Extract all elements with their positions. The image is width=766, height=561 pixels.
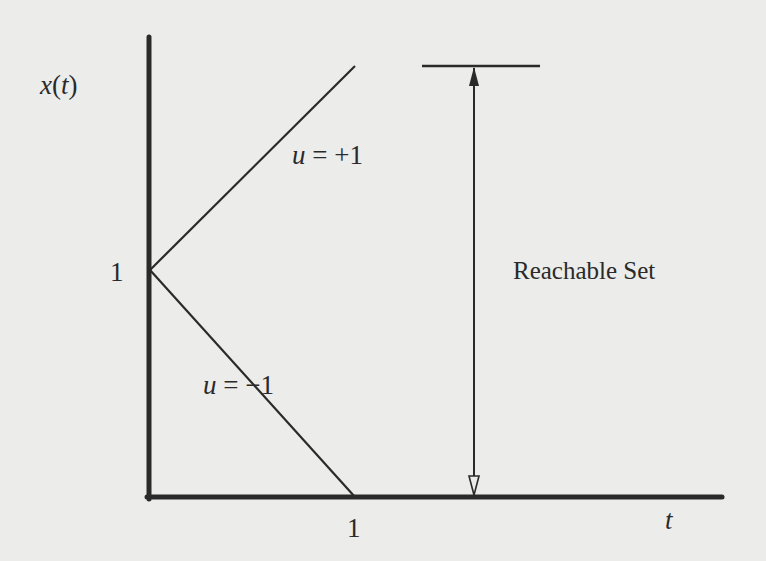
label-u-minus-1-var: u (203, 370, 217, 400)
arrowhead-up-icon (469, 67, 479, 86)
y-axis-label-var: x (40, 70, 52, 100)
reachable-set-label: Reachable Set (513, 257, 655, 285)
label-u-plus-1: u = +1 (292, 140, 363, 171)
y-axis-label: x(t) (40, 70, 78, 101)
x-tick-1: 1 (347, 513, 361, 544)
label-u-minus-1: u = −1 (203, 370, 274, 401)
x-axis-label: t (665, 505, 673, 536)
label-u-minus-1-eq: = −1 (217, 370, 274, 400)
label-u-plus-1-eq: = +1 (306, 140, 363, 170)
y-axis-label-arg: t (61, 70, 69, 100)
arrowhead-down-icon (469, 476, 479, 495)
y-tick-1: 1 (110, 257, 124, 288)
label-u-plus-1-var: u (292, 140, 306, 170)
reachable-set-figure: x(t) 1 1 t u = +1 u = −1 Reachable Set (0, 0, 766, 561)
